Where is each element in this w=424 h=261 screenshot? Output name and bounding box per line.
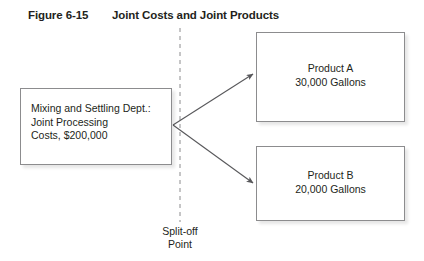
box-mixing-and-settling-dept-text: Mixing and Settling Dept.: Joint Process… bbox=[21, 102, 171, 143]
figure-number-label: Figure 6-15 bbox=[28, 9, 88, 21]
box-product-a: Product A 30,000 Gallons bbox=[256, 32, 405, 122]
box-mixing-and-settling-dept: Mixing and Settling Dept.: Joint Process… bbox=[20, 88, 172, 165]
arrow-to-product-b bbox=[173, 125, 253, 183]
figure-canvas: Figure 6-15 Joint Costs and Joint Produc… bbox=[0, 0, 424, 261]
split-off-point-label: Split-off Point bbox=[130, 225, 230, 251]
split-off-label-line1: Split-off bbox=[130, 225, 230, 238]
arrow-to-product-a bbox=[173, 74, 253, 125]
box-product-b-text: Product B 20,000 Gallons bbox=[257, 169, 404, 196]
figure-header: Figure 6-15 Joint Costs and Joint Produc… bbox=[0, 9, 424, 27]
figure-title: Joint Costs and Joint Products bbox=[112, 9, 279, 21]
box-product-a-text: Product A 30,000 Gallons bbox=[257, 62, 404, 89]
split-off-label-line2: Point bbox=[130, 238, 230, 251]
box-product-b: Product B 20,000 Gallons bbox=[256, 146, 405, 221]
